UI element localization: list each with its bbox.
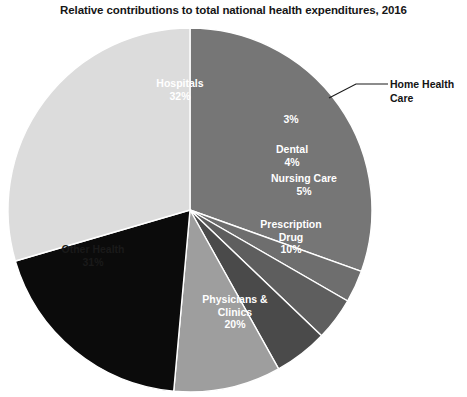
callout-label-home-health-care: Home Health Care	[390, 78, 466, 105]
callout-leader-line-group	[329, 84, 388, 98]
pie-chart-canvas	[0, 0, 467, 397]
callout-label-line1: Home Health	[390, 78, 454, 90]
pie-chart-figure: Relative contributions to total national…	[0, 0, 467, 397]
callout-label-line2: Care	[390, 92, 413, 104]
home-health-care-leader-line	[329, 84, 388, 98]
pie-slice-group	[8, 28, 372, 392]
